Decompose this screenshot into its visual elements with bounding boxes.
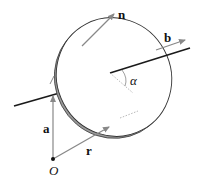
axis-line-front	[14, 92, 63, 106]
label-n: n	[118, 8, 125, 21]
label-a: a	[43, 122, 50, 135]
label-alpha: α	[130, 74, 137, 87]
hidden-tick	[50, 76, 54, 84]
diagram-canvas	[0, 0, 199, 183]
label-b: b	[164, 31, 171, 44]
label-origin: O	[49, 164, 58, 177]
position-vector-r	[53, 127, 109, 159]
origin-point	[51, 157, 55, 161]
disk	[34, 0, 193, 159]
label-r: r	[86, 144, 92, 157]
